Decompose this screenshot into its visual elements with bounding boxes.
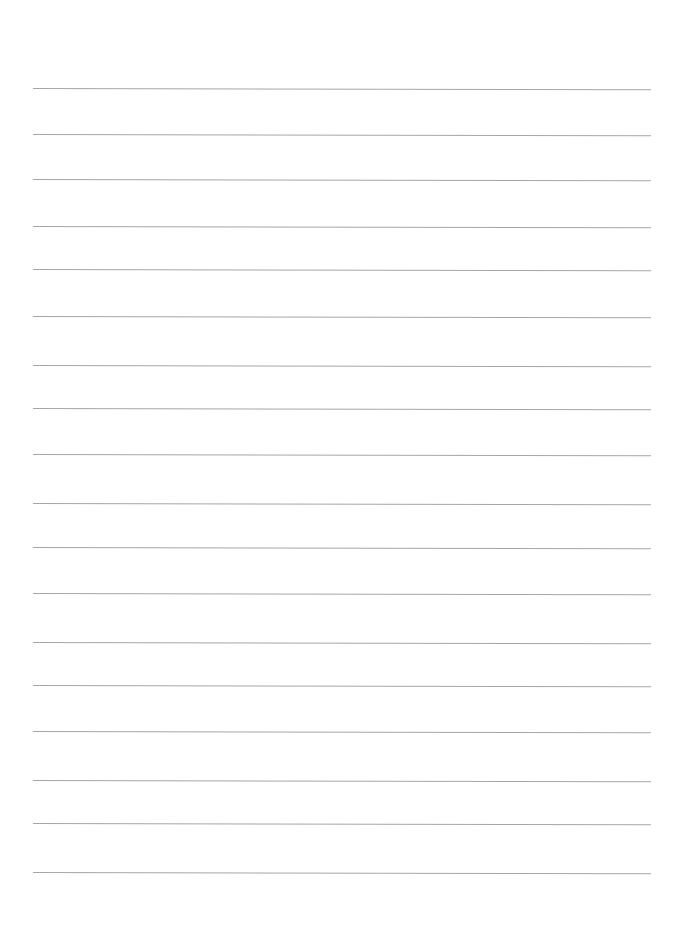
ruled-line-7	[33, 365, 651, 367]
ruled-line-14	[33, 685, 651, 687]
ruled-line-18	[33, 872, 651, 874]
ruled-line-1	[33, 88, 651, 90]
ruled-line-6	[33, 316, 651, 318]
ruled-line-16	[33, 780, 651, 782]
ruled-line-3	[33, 179, 651, 181]
ruled-line-11	[33, 547, 651, 549]
ruled-line-8	[33, 408, 651, 410]
ruled-line-15	[33, 731, 651, 733]
ruled-line-5	[33, 269, 651, 271]
ruled-line-12	[33, 593, 651, 595]
ruled-line-10	[33, 503, 651, 505]
ruled-line-2	[33, 134, 651, 136]
ruled-line-13	[33, 642, 651, 644]
lined-page	[0, 0, 682, 936]
ruled-line-9	[33, 454, 651, 456]
ruled-line-4	[33, 226, 651, 228]
ruled-line-17	[33, 823, 651, 825]
